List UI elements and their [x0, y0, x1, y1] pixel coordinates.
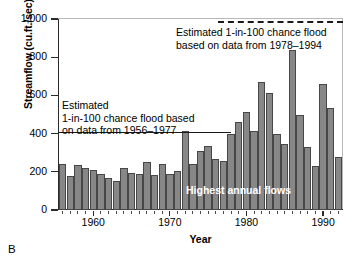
bar-1971	[174, 171, 181, 210]
x-minor-tick-1965	[131, 211, 132, 214]
bar-1968	[151, 175, 158, 210]
x-tick-label-1990: 1990	[303, 216, 343, 228]
annotation-flood-1956-1977: Estimated 1-in-100 chance flood based on…	[62, 99, 195, 137]
x-minor-tick-1979	[238, 211, 239, 214]
bar-1991	[327, 108, 334, 210]
panel-letter: B	[8, 243, 16, 255]
flood-line-1978-1994	[218, 21, 343, 23]
x-minor-tick-1957	[70, 211, 71, 214]
bar-1987	[296, 115, 303, 211]
x-minor-tick-1975	[208, 211, 209, 214]
annotation-1956-line-2: 1-in-100 chance flood based	[62, 112, 195, 125]
streamflow-bar-chart-figure: Streamflow (cu.ft./sec) 02004006008001,0…	[0, 0, 353, 265]
bar-1960	[90, 170, 97, 210]
bar-1962	[105, 178, 112, 210]
bar-1965	[128, 173, 135, 210]
x-minor-tick-1961	[100, 211, 101, 214]
x-minor-tick-1992	[338, 211, 339, 214]
bar-1964	[120, 168, 127, 210]
x-minor-tick-1964	[123, 211, 124, 214]
x-tick-label-1970: 1970	[150, 216, 190, 228]
bar-1957	[67, 176, 74, 210]
x-minor-tick-1956	[62, 211, 63, 214]
bar-1992	[335, 157, 342, 210]
annotation-1956-line-1: Estimated	[62, 99, 195, 112]
x-tick-label-1980: 1980	[226, 216, 266, 228]
bar-1956	[59, 164, 66, 210]
annotation-1978-line-1: Estimated 1-in-100 chance flood	[176, 26, 327, 39]
bar-1978	[227, 134, 234, 210]
x-minor-tick-1967	[146, 211, 147, 214]
x-minor-tick-1977	[223, 211, 224, 214]
x-minor-tick-1987	[300, 211, 301, 214]
x-minor-tick-1978	[231, 211, 232, 214]
annotation-flood-1978-1994: Estimated 1-in-100 chance flood based on…	[176, 26, 327, 51]
annotation-1956-line-3: on data from 1956–1977	[62, 124, 195, 137]
bar-1967	[143, 162, 150, 210]
annotation-highest-annual-flows: Highest annual flows	[186, 184, 291, 196]
x-minor-tick-1969	[162, 211, 163, 214]
bar-1959	[82, 168, 89, 210]
x-minor-tick-1966	[139, 211, 140, 214]
x-minor-tick-1971	[177, 211, 178, 214]
annotation-1978-line-2: based on data from 1978–1994	[176, 39, 327, 52]
x-minor-tick-1974	[200, 211, 201, 214]
x-minor-tick-1983	[269, 211, 270, 214]
bar-1966	[136, 174, 143, 210]
bar-1979	[235, 122, 242, 210]
x-minor-tick-1968	[154, 211, 155, 214]
x-minor-tick-1962	[108, 211, 109, 214]
x-minor-tick-1958	[77, 211, 78, 214]
bar-1988	[304, 147, 311, 210]
bar-1963	[113, 181, 120, 210]
x-minor-tick-1984	[277, 211, 278, 214]
x-minor-tick-1981	[254, 211, 255, 214]
x-minor-tick-1989	[315, 211, 316, 214]
bar-1984	[273, 134, 280, 210]
bar-1958	[74, 165, 81, 210]
x-minor-tick-1982	[261, 211, 262, 214]
bar-1981	[250, 131, 257, 210]
x-tick-label-1960: 1960	[73, 216, 113, 228]
x-axis-title: Year	[58, 233, 343, 245]
x-minor-tick-1959	[85, 211, 86, 214]
x-minor-tick-1985	[284, 211, 285, 214]
bar-1975	[204, 146, 211, 210]
x-minor-tick-1973	[192, 211, 193, 214]
bar-1969	[159, 164, 166, 210]
x-minor-tick-1963	[116, 211, 117, 214]
x-minor-tick-1991	[330, 211, 331, 214]
bar-1985	[281, 144, 288, 210]
x-minor-tick-1988	[307, 211, 308, 214]
bar-1970	[166, 174, 173, 210]
x-minor-tick-1972	[185, 211, 186, 214]
bar-1974	[197, 151, 204, 210]
x-minor-tick-1976	[215, 211, 216, 214]
bar-1961	[97, 174, 104, 210]
bar-1989	[312, 166, 319, 210]
bar-1972	[182, 131, 189, 210]
x-minor-tick-1986	[292, 211, 293, 214]
bar-1990	[319, 84, 326, 210]
